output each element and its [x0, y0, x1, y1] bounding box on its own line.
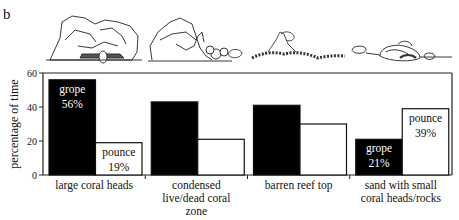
category-labels: large coral headscondensedlive/dead cora…	[55, 179, 441, 217]
bar-annotation: grope	[366, 142, 392, 155]
large-coral-heads-icon	[46, 16, 142, 63]
bar-annotation: pounce	[409, 112, 442, 125]
y-axis: 0204060	[27, 68, 43, 181]
category-label: condensed	[172, 179, 221, 191]
bar-annotation: 19%	[108, 161, 130, 173]
bar-annotation: pounce	[102, 146, 135, 159]
category-label: large coral heads	[55, 179, 133, 192]
bar-pounce	[198, 139, 245, 175]
y-tick-label: 40	[27, 102, 37, 113]
category-label: sand with small	[365, 179, 437, 191]
bar-pounce	[300, 124, 347, 175]
category-label: zone	[186, 205, 208, 217]
y-axis-label: percentage of time	[7, 79, 21, 168]
figure: b 0204060 percentage of time grope56%pou…	[0, 0, 459, 220]
bar-annotation: 39%	[415, 127, 437, 139]
barren-reef-top-icon	[228, 32, 345, 58]
y-tick-label: 0	[32, 170, 37, 181]
y-tick-label: 20	[27, 136, 37, 147]
category-label: live/dead coral	[162, 192, 230, 204]
bar-grope	[254, 105, 301, 175]
condensed-coral-icon	[148, 18, 232, 61]
bar-annotation: 21%	[368, 157, 390, 169]
sand-with-small-coral-heads-icon	[352, 41, 452, 61]
panel-label: b	[3, 6, 11, 22]
bar-annotation: 56%	[62, 98, 84, 110]
category-label: barren reef top	[265, 179, 333, 192]
bar-annotation: grope	[59, 83, 85, 96]
category-label: coral heads/rocks	[361, 192, 442, 204]
bar-grope	[151, 102, 198, 175]
y-tick-label: 60	[27, 68, 37, 79]
